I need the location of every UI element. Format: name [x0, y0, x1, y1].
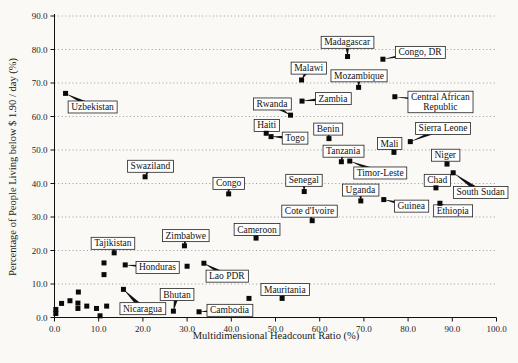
country-label-uganda: Uganda — [343, 184, 379, 196]
country-label-text-nicaragua: Nicaragua — [123, 304, 163, 314]
data-point-zambia — [300, 99, 305, 104]
country-label-cambodia: Cambodia — [207, 304, 253, 316]
country-label-mozambique: Mozambique — [331, 70, 387, 82]
country-label-tanzania: Tanzania — [323, 145, 364, 157]
data-point-swaziland — [143, 174, 148, 179]
data-point-senegal — [302, 189, 307, 194]
data-point-unlabeled-12 — [102, 260, 107, 265]
country-label-text-senegal: Senegal — [289, 175, 319, 185]
data-point-chad — [433, 185, 438, 190]
data-point-malawi — [299, 77, 304, 82]
data-point-unlabeled-8 — [84, 304, 89, 309]
data-point-unlabeled-4 — [67, 298, 72, 303]
country-label-madagascar: Madagascar — [321, 36, 374, 48]
country-label-text-cambodia: Cambodia — [210, 305, 250, 315]
data-point-madagascar — [345, 54, 350, 59]
country-label-text-congo-dr: Congo, DR — [398, 47, 442, 57]
country-label-cote-d-ivoire: Cote d'Ivoire — [282, 205, 337, 217]
y-tick-label-30.0: 30.0 — [32, 212, 48, 222]
data-point-unlabeled-11 — [104, 304, 109, 309]
country-label-text-guinea: Guinea — [397, 201, 425, 211]
country-label-text-uganda: Uganda — [346, 185, 376, 195]
data-point-rwanda — [288, 113, 293, 118]
data-point-unlabeled-2 — [53, 307, 58, 312]
country-label-rwanda: Rwanda — [253, 98, 291, 110]
data-point-unlabeled-9 — [94, 306, 99, 311]
country-label-central-african-republic: Central AfricanRepublic — [408, 91, 473, 113]
data-point-ethiopia — [437, 201, 442, 206]
x-tick-label-20.0: 20.0 — [135, 324, 151, 334]
y-tick-label-10.0: 10.0 — [32, 279, 48, 289]
x-tick-label-80.0: 80.0 — [400, 324, 416, 334]
country-label-text-mozambique: Mozambique — [334, 71, 384, 81]
y-tick-label-40.0: 40.0 — [32, 179, 48, 189]
y-tick-label-90.0: 90.0 — [32, 11, 48, 21]
y-tick-label-80.0: 80.0 — [32, 45, 48, 55]
country-label-text-tanzania: Tanzania — [326, 146, 361, 156]
country-label-text-malawi: Malawi — [294, 63, 323, 73]
country-label-text-madagascar: Madagascar — [324, 37, 371, 47]
country-label-text-haiti: Haiti — [257, 120, 276, 130]
y-tick-label-0.0: 0.0 — [36, 313, 48, 323]
country-label-niger: Niger — [431, 149, 459, 161]
data-point-unlabeled-7 — [75, 306, 80, 311]
country-label-text-zimbabwe: Zimbabwe — [165, 231, 206, 241]
country-label-text-sierra-leone: Sierra Leone — [419, 123, 468, 133]
country-label-text-congo: Congo — [216, 178, 242, 188]
country-label-lao-pdr: Lao PDR — [206, 270, 248, 282]
country-label-text-tajikistan: Tajikistan — [94, 238, 132, 248]
data-point-unlabeled-15 — [246, 296, 251, 301]
data-point-niger — [444, 162, 449, 167]
data-point-mauritania — [280, 296, 285, 301]
data-point-unlabeled-13 — [102, 272, 107, 277]
data-point-mali — [391, 150, 396, 155]
data-point-unlabeled-3 — [59, 301, 64, 306]
country-label-congo: Congo — [213, 177, 245, 189]
country-label-text-mauritania: Mauritania — [264, 285, 306, 295]
country-label-honduras: Honduras — [136, 261, 179, 273]
data-point-congo — [226, 191, 231, 196]
country-label-bhutan: Bhutan — [160, 289, 194, 301]
data-point-honduras — [123, 262, 128, 267]
data-point-zimbabwe — [182, 243, 187, 248]
country-label-text-timor-leste: Timor-Leste — [357, 168, 404, 178]
x-tick-label-10.0: 10.0 — [91, 324, 107, 334]
data-point-cambodia — [197, 309, 202, 314]
data-point-benin — [326, 136, 331, 141]
country-label-text-chad: Chad — [427, 175, 447, 185]
data-point-haiti — [264, 131, 269, 136]
scatter-chart: 0.010.020.030.040.050.060.070.080.090.00… — [0, 0, 518, 363]
country-label-uzbekistan: Uzbekistan — [68, 101, 117, 113]
y-tick-label-60.0: 60.0 — [32, 112, 48, 122]
country-label-timor-leste: Timor-Leste — [354, 167, 407, 179]
country-label-congo-dr: Congo, DR — [395, 46, 445, 58]
data-point-cote-d-ivoire — [310, 218, 315, 223]
data-point-congo-dr — [380, 57, 385, 62]
country-label-text-honduras: Honduras — [139, 262, 176, 272]
x-tick-label-100.0: 100.0 — [486, 324, 507, 334]
data-point-uganda — [358, 198, 363, 203]
country-label-sierra-leone: Sierra Leone — [416, 122, 471, 134]
country-label-nicaragua: Nicaragua — [120, 303, 166, 315]
y-axis-title: Percentage of People Living below $ 1.90… — [7, 58, 18, 276]
country-label-benin: Benin — [314, 123, 343, 135]
country-label-text-zambia: Zambia — [318, 94, 348, 104]
country-label-chad: Chad — [424, 174, 450, 186]
data-point-central-african-republic — [392, 94, 397, 99]
country-label-text-mali: Mali — [381, 139, 399, 149]
country-label-cameroon: Cameroon — [234, 224, 280, 236]
country-label-mauritania: Mauritania — [261, 284, 309, 296]
country-label-text-rwanda: Rwanda — [256, 99, 288, 109]
country-label-text-swaziland: Swaziland — [131, 161, 171, 171]
data-point-south-sudan — [451, 170, 456, 175]
data-point-unlabeled-14 — [185, 264, 190, 269]
country-label-text-cameroon: Cameroon — [237, 225, 277, 235]
data-point-bhutan — [171, 309, 176, 314]
data-point-unlabeled-10 — [98, 313, 103, 318]
country-label-text-cote-d-ivoire: Cote d'Ivoire — [285, 206, 334, 216]
country-label-togo: Togo — [282, 132, 308, 144]
x-tick-label-90.0: 90.0 — [444, 324, 460, 334]
country-label-south-sudan: South Sudan — [453, 186, 508, 198]
plot-area: 0.010.020.030.040.050.060.070.080.090.00… — [0, 0, 518, 363]
data-point-unlabeled-6 — [75, 301, 80, 306]
